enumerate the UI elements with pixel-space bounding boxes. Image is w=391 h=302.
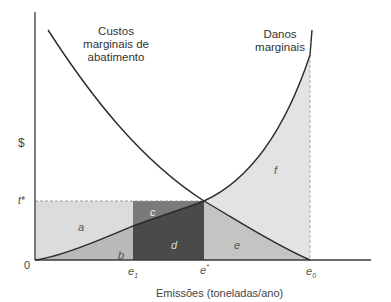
region-label-e: e: [234, 239, 240, 251]
abatement-label-line-3: abatimento: [76, 51, 156, 64]
region-label-c: c: [150, 206, 156, 218]
abatement-label-line-2: marginais de: [76, 38, 156, 51]
region-label-b: b: [118, 249, 124, 261]
y-axis-label: $: [18, 136, 25, 150]
x-axis-label: Emissões (toneladas/ano): [156, 287, 283, 299]
damage-label-line-1: Danos: [248, 28, 312, 41]
region-label-f: f: [274, 164, 277, 176]
origin-label: 0: [24, 259, 30, 271]
abatement-curve-label: Custos marginais de abatimento: [76, 25, 156, 64]
t-star-label: t*: [18, 195, 25, 206]
region-label-d: d: [171, 239, 177, 251]
damage-curve-label: Danos marginais: [248, 28, 312, 54]
abatement-label-line-1: Custos: [76, 25, 156, 38]
damage-label-line-2: marginais: [248, 41, 312, 54]
chart-canvas: [0, 0, 391, 302]
tick-e0: e0: [306, 265, 316, 279]
tick-e1: e1: [128, 265, 138, 279]
tick-e-star: e*: [200, 263, 209, 276]
region-label-a: a: [78, 221, 84, 233]
